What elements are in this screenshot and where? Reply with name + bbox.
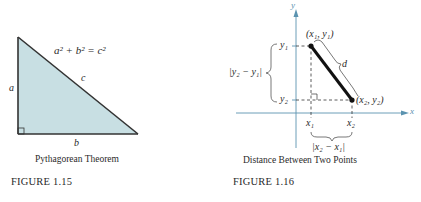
- distance-label: d: [342, 58, 347, 69]
- right-angle-marker: [311, 94, 317, 100]
- x-axis-label: x: [410, 106, 414, 116]
- figure-label: FIGURE 1.16: [233, 176, 294, 187]
- tick-label-y2: y₂: [280, 93, 288, 104]
- distance-brace: [314, 40, 358, 96]
- vertical-difference-label: |y₂ − y₁|: [229, 66, 262, 77]
- figure-label: FIGURE 1.15: [11, 176, 72, 187]
- pythagorean-equation: a² + b² = c²: [54, 44, 106, 56]
- side-label-c: c: [81, 72, 85, 83]
- horizontal-difference-label: |x₂ − x₁|: [312, 141, 345, 152]
- tick-label-x2: x₂: [347, 117, 355, 128]
- vertical-brace: [266, 44, 277, 102]
- figure-caption: Pythagorean Theorem: [35, 154, 119, 164]
- figure-caption: Distance Between Two Points: [243, 155, 357, 165]
- x-axis-arrow-icon: [401, 111, 409, 116]
- dashed-guides: [296, 46, 352, 118]
- point-2-label: (x₂, y₂): [356, 94, 384, 105]
- point-1-label: (x₁, y₁): [306, 28, 334, 39]
- tick-label-x1: x₁: [306, 117, 314, 128]
- point-1: [308, 43, 313, 48]
- side-label-b: b: [74, 137, 79, 148]
- horizontal-brace: [311, 132, 352, 141]
- tick-label-y1: y₁: [280, 39, 288, 50]
- y-axis-label: y: [291, 0, 295, 10]
- point-2: [349, 97, 354, 102]
- y-axis-arrow-icon: [294, 9, 299, 17]
- side-label-a: a: [9, 82, 14, 93]
